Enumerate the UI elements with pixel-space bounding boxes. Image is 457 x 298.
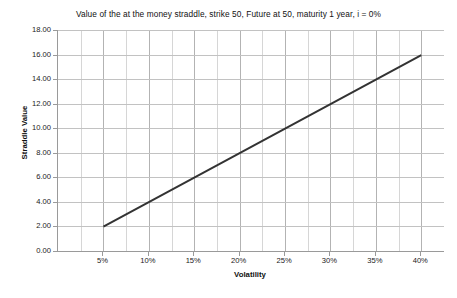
y-tick-label: 14.00 — [0, 75, 51, 83]
x-tick-mark — [148, 252, 149, 256]
y-tick-label: 16.00 — [0, 51, 51, 59]
plot-svg — [58, 30, 444, 251]
grid-major-horizontal — [58, 31, 444, 227]
y-tick-label: 0.00 — [0, 247, 51, 255]
x-tick-label: 5% — [82, 256, 122, 265]
x-tick-label: 15% — [173, 256, 213, 265]
x-tick-label: 20% — [219, 256, 259, 265]
y-tick-label: 18.00 — [0, 26, 51, 34]
chart-container: Value of the at the money straddle, stri… — [0, 0, 457, 298]
x-tick-label: 30% — [309, 256, 349, 265]
x-tick-mark — [193, 252, 194, 256]
x-tick-label: 40% — [400, 256, 440, 265]
x-tick-mark — [284, 252, 285, 256]
x-tick-label: 25% — [264, 256, 304, 265]
plot-area — [57, 30, 444, 252]
x-axis-title: Volatility — [57, 270, 443, 279]
y-tick-label: 6.00 — [0, 173, 51, 181]
x-tick-mark — [102, 252, 103, 256]
x-tick-label: 35% — [355, 256, 395, 265]
x-tick-mark — [329, 252, 330, 256]
x-tick-mark — [239, 252, 240, 256]
chart-title: Value of the at the money straddle, stri… — [0, 9, 457, 19]
y-tick-label: 2.00 — [0, 222, 51, 230]
x-tick-mark — [420, 252, 421, 256]
x-tick-mark — [375, 252, 376, 256]
y-tick-label: 4.00 — [0, 198, 51, 206]
y-tick-label: 8.00 — [0, 149, 51, 157]
y-tick-label: 10.00 — [0, 124, 51, 132]
y-tick-label: 12.00 — [0, 100, 51, 108]
x-tick-label: 10% — [128, 256, 168, 265]
